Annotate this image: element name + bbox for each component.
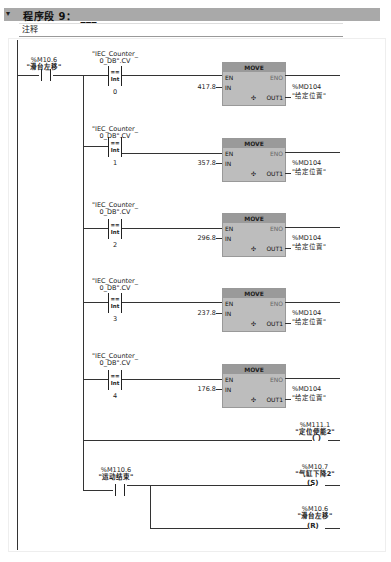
move-out-symbol: "给定位置": [292, 92, 332, 100]
wire: [17, 75, 39, 76]
add-output-icon: ✣: [251, 396, 256, 403]
wire: [328, 440, 340, 441]
compare-value: 1: [108, 159, 122, 167]
reset-coil-m10-6[interactable]: (R): [307, 522, 319, 530]
move-out-address: %MD104: [292, 309, 332, 317]
move-block[interactable]: MOVE EN ENO IN OUT1 ✣: [222, 288, 286, 332]
wire: [285, 75, 340, 76]
left-power-rail: [17, 40, 18, 550]
wire: [83, 379, 108, 380]
wire: [83, 302, 108, 303]
wire: [122, 228, 222, 229]
wire: [122, 75, 222, 76]
no-contact-m110-6[interactable]: [113, 484, 127, 496]
compare-operand: 0_DB".CV: [85, 208, 145, 216]
compare-value: 0: [108, 88, 122, 96]
compare-value: 2: [108, 241, 122, 249]
move-block[interactable]: MOVE EN ENO IN OUT1 ✣: [222, 213, 286, 257]
branch-line: [150, 485, 151, 528]
compare-eq-int[interactable]: ==Int: [108, 219, 122, 239]
add-output-icon: ✣: [251, 170, 256, 177]
wire: [216, 389, 222, 390]
compare-value: 3: [108, 315, 122, 323]
contact-symbol: "运动结束": [96, 473, 136, 481]
move-block[interactable]: MOVE EN ENO IN OUT1 ✣: [222, 62, 286, 106]
move-in-value: 357.8: [196, 159, 216, 167]
add-output-icon: ✣: [251, 245, 256, 252]
wire: [325, 485, 340, 486]
wire: [53, 75, 108, 76]
add-output-icon: ✣: [251, 320, 256, 327]
wire: [150, 528, 308, 529]
add-output-icon: ✣: [251, 94, 256, 101]
move-in-value: 237.8: [196, 309, 216, 317]
move-out-symbol: "给定位置": [292, 318, 332, 326]
wire: [216, 313, 222, 314]
compare-eq-int[interactable]: ==Int: [108, 137, 122, 157]
wire: [285, 302, 340, 303]
wire: [285, 152, 340, 153]
compare-operand: 0_DB".CV: [85, 359, 145, 367]
set-coil-m10-7[interactable]: (S): [307, 479, 318, 487]
compare-eq-int[interactable]: ==Int: [108, 293, 122, 313]
comment-label: 注释: [22, 23, 38, 34]
coil-symbol: "气缸下降2": [290, 470, 340, 478]
wire: [325, 528, 340, 529]
wire: [285, 378, 340, 379]
move-out-address: %MD104: [292, 234, 332, 242]
wire: [285, 173, 291, 174]
compare-eq-int[interactable]: ==Int: [108, 66, 122, 86]
wire: [83, 228, 108, 229]
comment-field[interactable]: [19, 23, 343, 37]
wire: [127, 485, 312, 486]
output-coil-m111-1[interactable]: ( ): [312, 434, 321, 442]
collapse-icon[interactable]: ▾: [6, 9, 10, 18]
wire: [285, 323, 291, 324]
compare-eq-int[interactable]: ==Int: [108, 370, 122, 390]
coil-symbol: "滑台左移": [290, 512, 340, 520]
compare-value: 4: [108, 392, 122, 400]
wire: [83, 440, 312, 441]
network-title: 程序段 9： ___: [23, 8, 97, 23]
no-contact-m10-6[interactable]: [39, 69, 53, 81]
move-in-value: 176.8: [196, 385, 216, 393]
wire: [285, 97, 291, 98]
move-out-symbol: "给定位置": [292, 394, 332, 402]
wire: [122, 302, 222, 303]
move-out-symbol: "给定位置": [292, 168, 332, 176]
move-block[interactable]: MOVE EN ENO IN OUT1 ✣: [222, 364, 286, 408]
branch-bus: [83, 75, 84, 490]
wire: [216, 87, 222, 88]
compare-operand: 0_DB".CV: [85, 284, 145, 292]
wire: [285, 248, 291, 249]
move-out-address: %MD104: [292, 159, 332, 167]
wire: [122, 153, 222, 154]
move-in-value: 296.8: [196, 234, 216, 242]
wire: [285, 399, 291, 400]
wire: [122, 379, 222, 380]
compare-operand: 0_DB".CV: [85, 57, 145, 65]
wire: [285, 227, 340, 228]
move-in-value: 417.8: [196, 83, 216, 91]
wire: [216, 163, 222, 164]
wire: [83, 490, 113, 491]
move-out-address: %MD104: [292, 83, 332, 91]
move-block[interactable]: MOVE EN ENO IN OUT1 ✣: [222, 138, 286, 182]
move-out-symbol: "给定位置": [292, 243, 332, 251]
wire: [216, 238, 222, 239]
move-out-address: %MD104: [292, 385, 332, 393]
wire: [83, 146, 108, 147]
